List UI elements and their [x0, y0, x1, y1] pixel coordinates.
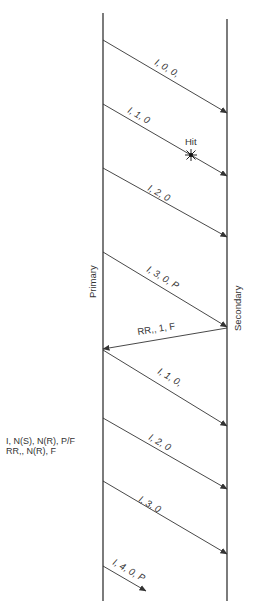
frame-label: I, 0, 0, — [153, 56, 181, 79]
frame-label: I, 1, 0 — [126, 104, 153, 126]
frame-label: I, 3, 0 — [137, 493, 164, 515]
primary-label: Primary — [87, 265, 98, 298]
frame-label: I, 3, 0, P — [145, 263, 182, 291]
star-burst-icon — [185, 149, 197, 161]
frame-label: RR,, 1, F — [137, 320, 176, 337]
frame-arrow-3: I, 3, 0, P — [103, 252, 227, 327]
hit-label: Hit — [185, 136, 197, 147]
frame-label: I, 2, 0 — [147, 431, 174, 453]
legend-line-info: I, N(S), N(R), P/F — [6, 436, 75, 446]
frame-arrow-5: I, 1, 0, — [103, 350, 227, 426]
frame-arrow-6: I, 2, 0 — [103, 418, 227, 489]
frame-arrow-0: I, 0, 0, — [103, 40, 227, 113]
sequence-diagram: I, 0, 0, I, 1, 0 I, 2, 0 I, 3, 0, P RR,,… — [0, 0, 253, 615]
frame-label: I, 2, 0 — [146, 182, 173, 203]
legend-line-rr: RR,, N(R), F — [6, 446, 75, 456]
frame-label: I, 4, 0, P — [111, 556, 148, 584]
secondary-label: Secondary — [232, 285, 243, 331]
frame-arrow-4: RR,, 1, F — [103, 320, 227, 349]
frame-arrow-2: I, 2, 0 — [103, 168, 227, 237]
frame-arrow-8: I, 4, 0, P — [103, 556, 148, 591]
frame-format-legend: I, N(S), N(R), P/F RR,, N(R), F — [6, 436, 75, 456]
frame-arrow-1: I, 1, 0 — [103, 104, 227, 176]
frame-arrow-7: I, 3, 0 — [103, 481, 227, 554]
